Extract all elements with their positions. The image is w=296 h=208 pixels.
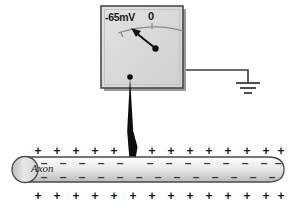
ground-symbol bbox=[236, 83, 260, 93]
voltmeter-label-zero: 0 bbox=[148, 11, 154, 22]
svg-text:–: – bbox=[60, 156, 67, 170]
svg-text:–: – bbox=[79, 170, 86, 184]
svg-text:+: + bbox=[110, 189, 117, 203]
svg-text:+: + bbox=[277, 189, 284, 203]
svg-text:–: – bbox=[269, 170, 276, 184]
svg-text:–: – bbox=[250, 170, 257, 184]
svg-text:+: + bbox=[148, 189, 155, 203]
svg-text:–: – bbox=[117, 156, 124, 170]
svg-text:+: + bbox=[91, 189, 98, 203]
svg-text:–: – bbox=[275, 156, 282, 170]
svg-text:+: + bbox=[243, 189, 250, 203]
svg-text:–: – bbox=[98, 170, 105, 184]
svg-text:–: – bbox=[60, 170, 67, 184]
svg-text:–: – bbox=[231, 170, 238, 184]
svg-text:–: – bbox=[136, 170, 143, 184]
svg-text:–: – bbox=[147, 156, 154, 170]
voltmeter-label-minus65: -65mV bbox=[105, 12, 135, 23]
svg-text:+: + bbox=[34, 189, 41, 203]
svg-text:–: – bbox=[212, 170, 219, 184]
figure-canvas: + + + + + + + + + + + + + – – – – – – – bbox=[0, 0, 296, 208]
ground-wire bbox=[183, 70, 248, 82]
svg-text:+: + bbox=[224, 189, 231, 203]
svg-text:–: – bbox=[79, 156, 86, 170]
svg-text:+: + bbox=[186, 189, 193, 203]
svg-text:+: + bbox=[262, 189, 269, 203]
svg-text:–: – bbox=[223, 156, 230, 170]
axon-label: Axon bbox=[31, 163, 54, 174]
svg-text:+: + bbox=[205, 189, 212, 203]
svg-text:–: – bbox=[185, 156, 192, 170]
svg-text:–: – bbox=[242, 156, 249, 170]
svg-text:–: – bbox=[155, 170, 162, 184]
svg-text:+: + bbox=[129, 189, 136, 203]
figure-root: + + + + + + + + + + + + + – – – – – – – bbox=[0, 0, 296, 208]
svg-text:–: – bbox=[193, 170, 200, 184]
svg-text:–: – bbox=[166, 156, 173, 170]
svg-text:–: – bbox=[204, 156, 211, 170]
svg-text:–: – bbox=[98, 156, 105, 170]
svg-text:–: – bbox=[117, 170, 124, 184]
svg-text:+: + bbox=[53, 189, 60, 203]
svg-text:+: + bbox=[72, 189, 79, 203]
axon-outside-charges-bottom: + + + + + + + + + + + + + + bbox=[34, 189, 284, 203]
svg-text:+: + bbox=[167, 189, 174, 203]
svg-text:–: – bbox=[261, 156, 268, 170]
svg-text:–: – bbox=[174, 170, 181, 184]
